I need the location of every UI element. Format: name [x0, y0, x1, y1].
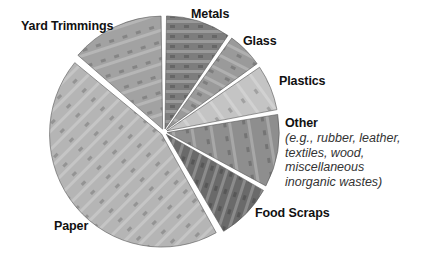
label-paper: Paper: [54, 219, 88, 233]
label-other-sub-3: miscellaneous: [285, 160, 364, 175]
label-metals: Metals: [191, 7, 229, 21]
label-other-sub-1: (e.g., rubber, leather,: [285, 131, 400, 146]
label-food-scraps: Food Scraps: [255, 206, 330, 220]
label-other-sub-2: textiles, wood,: [285, 146, 364, 161]
label-plastics: Plastics: [279, 74, 325, 88]
label-yard-trimmings: Yard Trimmings: [21, 19, 113, 33]
label-other-sub-4: inorganic wastes): [285, 175, 382, 190]
label-other: Other: [285, 116, 318, 130]
label-glass: Glass: [243, 34, 277, 48]
